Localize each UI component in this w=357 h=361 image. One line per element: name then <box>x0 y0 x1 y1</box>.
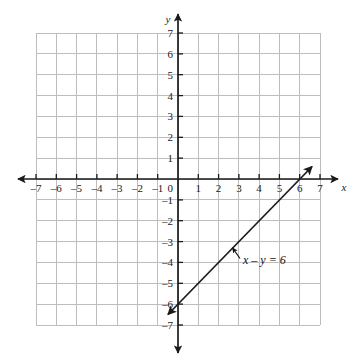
equation-annotation-label: x – y = 6 <box>242 253 286 267</box>
origin-label: 0 <box>168 182 174 194</box>
x-tick-label: 3 <box>236 182 242 194</box>
x-tick-label: –4 <box>90 182 103 194</box>
y-axis-label: y <box>165 13 171 25</box>
coordinate-plane-figure: –7 –6 –5 –4 –3 –2 –1 1 2 3 4 5 6 7 7 6 5… <box>0 0 357 361</box>
y-tick-label: –7 <box>161 319 174 331</box>
y-tick-label: –4 <box>161 256 174 268</box>
x-axis-label: x <box>341 181 347 193</box>
y-tick-label: –1 <box>161 194 173 206</box>
x-tick-label: –7 <box>30 182 43 194</box>
x-tick-label: –5 <box>70 182 83 194</box>
y-tick-label: –3 <box>161 236 174 248</box>
x-tick-label: 6 <box>297 182 303 194</box>
y-tick-label: –5 <box>161 277 174 289</box>
x-tick-label: –3 <box>111 182 124 194</box>
x-tick-label: 4 <box>256 182 262 194</box>
y-tick-label: 6 <box>168 48 174 60</box>
y-tick-label: 7 <box>168 27 174 39</box>
y-tick-label: 2 <box>168 131 174 143</box>
y-tick-label: 1 <box>168 152 174 164</box>
x-tick-label: 2 <box>216 182 222 194</box>
x-tick-label: 1 <box>196 182 202 194</box>
x-tick-label: –6 <box>50 182 63 194</box>
y-tick-label: 3 <box>168 110 174 122</box>
x-tick-label: –2 <box>131 182 143 194</box>
y-tick-label: –2 <box>161 215 173 227</box>
y-tick-label: 5 <box>168 69 174 81</box>
y-tick-label: –6 <box>161 298 174 310</box>
x-tick-label: 5 <box>277 182 283 194</box>
x-tick-label: 7 <box>317 182 323 194</box>
y-tick-label: 4 <box>168 90 174 102</box>
x-tick-label: –1 <box>151 182 163 194</box>
